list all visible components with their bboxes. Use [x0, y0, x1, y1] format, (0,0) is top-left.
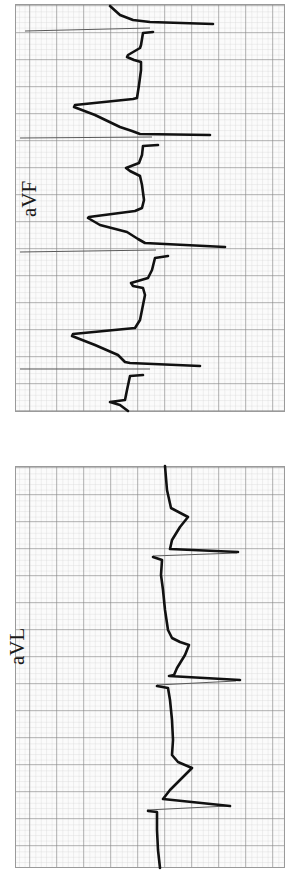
ecg-traces	[0, 0, 291, 895]
avf-waveform	[72, 6, 225, 411]
avl-segment-0	[165, 466, 238, 552]
avf-spike-0	[25, 28, 150, 31]
avl-spike-2	[147, 806, 228, 810]
avl-spike-0	[153, 553, 237, 556]
lead-label-avl: aVL	[5, 628, 30, 665]
avf-spike-1	[20, 137, 152, 138]
lead-label-avf: aVF	[17, 181, 42, 217]
avl-spike-1	[157, 681, 236, 685]
avl-pacing-spikes	[147, 553, 237, 810]
avf-segment-1	[74, 32, 210, 135]
avl-segment-1	[153, 557, 240, 680]
avl-segment-3	[148, 811, 160, 868]
avf-spike-2	[20, 250, 156, 252]
avf-segment-2	[88, 145, 225, 247]
avf-segment-4	[110, 375, 143, 411]
avl-segment-2	[157, 686, 230, 806]
avf-segment-0	[110, 6, 213, 24]
avf-segment-3	[72, 256, 200, 366]
